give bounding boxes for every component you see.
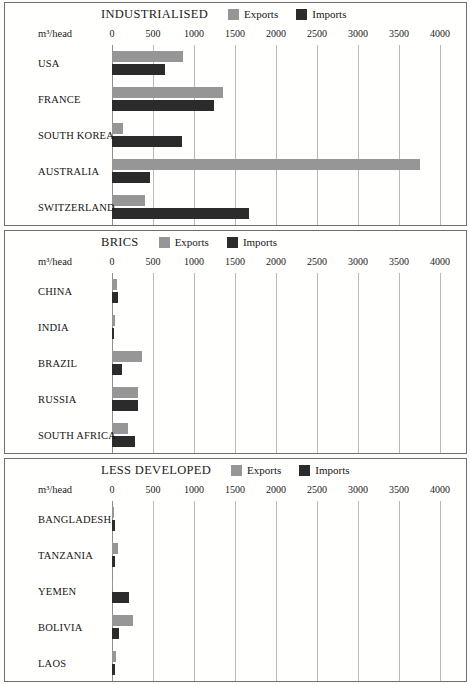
legend-swatch-exports-icon	[231, 465, 242, 476]
bar-exports	[112, 387, 138, 398]
category-label: FRANCE	[38, 94, 81, 105]
panel-title: BRICS	[101, 235, 139, 250]
axis-tick-label: 1500	[225, 256, 245, 267]
plot-area: USAFRANCESOUTH KOREAAUSTRALIASWITZERLAND	[5, 45, 466, 225]
bar-row: TANZANIA	[5, 537, 466, 573]
bar-row: USA	[5, 45, 466, 81]
axis-tick-label: 500	[146, 256, 161, 267]
axis-tick-label: 3500	[389, 28, 409, 39]
category-label: BRAZIL	[38, 358, 77, 369]
bar-imports	[112, 364, 122, 375]
bar-exports	[112, 507, 114, 518]
axis-tick-label: 0	[110, 256, 115, 267]
axis-tick-label: 3500	[389, 256, 409, 267]
category-label: LAOS	[38, 658, 66, 669]
category-label: AUSTRALIA	[38, 166, 99, 177]
axis-tick-label: 4000	[430, 256, 450, 267]
bar-imports	[112, 100, 214, 111]
panel-header: BRICSExportsImports	[5, 231, 466, 253]
x-axis: m³/head05001000150020002500300035004000	[5, 481, 466, 501]
bar-imports	[112, 172, 150, 183]
bar-imports	[112, 628, 119, 639]
category-label: SOUTH AFRICA	[38, 430, 116, 441]
axis-tick-label: 3500	[389, 484, 409, 495]
bar-imports	[112, 136, 182, 147]
bar-imports	[112, 208, 249, 219]
bar-row: CHINA	[5, 273, 466, 309]
bar-imports	[112, 592, 129, 603]
bar-row: RUSSIA	[5, 381, 466, 417]
bar-row: AUSTRALIA	[5, 153, 466, 189]
bar-row: SOUTH KOREA	[5, 117, 466, 153]
bar-row: SOUTH AFRICA	[5, 417, 466, 453]
axis-tick-label: 0	[110, 28, 115, 39]
bar-row: LAOS	[5, 645, 466, 681]
bar-exports	[112, 351, 142, 362]
legend-swatch-imports-icon	[227, 237, 238, 248]
category-label: CHINA	[38, 286, 72, 297]
bar-group	[5, 645, 466, 681]
legend-label-imports: Imports	[315, 464, 349, 476]
legend-label-imports: Imports	[312, 8, 346, 20]
bar-row: FRANCE	[5, 81, 466, 117]
legend-swatch-exports-icon	[228, 9, 239, 20]
category-label: INDIA	[38, 322, 69, 333]
legend-item-imports: Imports	[296, 8, 346, 20]
legend-item-exports: Exports	[228, 8, 278, 20]
axis-tick-label: 1000	[184, 256, 204, 267]
axis-unit-label: m³/head	[38, 28, 72, 39]
axis-tick-label: 3000	[348, 256, 368, 267]
legend-item-imports: Imports	[299, 464, 349, 476]
legend-swatch-imports-icon	[296, 9, 307, 20]
bar-row: BANGLADESH	[5, 501, 466, 537]
bar-imports	[112, 664, 115, 675]
axis-unit-label: m³/head	[38, 256, 72, 267]
axis-tick-label: 1000	[184, 28, 204, 39]
category-label: TANZANIA	[38, 550, 93, 561]
chart-legend: ExportsImports	[159, 236, 277, 248]
axis-tick-label: 0	[110, 484, 115, 495]
axis-tick-label: 1500	[225, 28, 245, 39]
category-label: SOUTH KOREA	[38, 130, 114, 141]
bar-exports	[112, 87, 223, 98]
chart-legend: ExportsImports	[231, 464, 349, 476]
bar-exports	[112, 195, 145, 206]
bar-imports	[112, 556, 115, 567]
bar-imports	[112, 400, 138, 411]
legend-label-exports: Exports	[244, 8, 278, 20]
bar-exports	[112, 543, 118, 554]
axis-tick-label: 2500	[307, 256, 327, 267]
legend-swatch-exports-icon	[159, 237, 170, 248]
plot-area: CHINAINDIABRAZILRUSSIASOUTH AFRICA	[5, 273, 466, 453]
panel-title: LESS DEVELOPED	[101, 463, 211, 478]
category-label: USA	[38, 58, 60, 69]
axis-unit-label: m³/head	[38, 484, 72, 495]
bar-imports	[112, 520, 115, 531]
chart-panel: BRICSExportsImportsm³/head05001000150020…	[4, 230, 467, 454]
x-axis: m³/head05001000150020002500300035004000	[5, 253, 466, 273]
bar-exports	[112, 579, 113, 590]
bar-group	[5, 309, 466, 345]
bar-row: BRAZIL	[5, 345, 466, 381]
axis-tick-label: 3000	[348, 484, 368, 495]
bar-group	[5, 273, 466, 309]
axis-tick-label: 500	[146, 28, 161, 39]
bar-row: SWITZERLAND	[5, 189, 466, 225]
axis-tick-label: 2500	[307, 28, 327, 39]
bar-rows: CHINAINDIABRAZILRUSSIASOUTH AFRICA	[5, 273, 466, 453]
category-label: SWITZERLAND	[38, 202, 115, 213]
axis-tick-label: 2000	[266, 28, 286, 39]
panel-header: LESS DEVELOPEDExportsImports	[5, 459, 466, 481]
bar-imports	[112, 292, 118, 303]
category-label: RUSSIA	[38, 394, 77, 405]
axis-tick-label: 500	[146, 484, 161, 495]
axis-tick-label: 1000	[184, 484, 204, 495]
legend-label-exports: Exports	[175, 236, 209, 248]
bar-exports	[112, 51, 183, 62]
bar-exports	[112, 279, 117, 290]
category-label: YEMEN	[38, 586, 76, 597]
axis-tick-label: 2000	[266, 484, 286, 495]
bar-row: INDIA	[5, 309, 466, 345]
plot-area: BANGLADESHTANZANIAYEMENBOLIVIALAOS	[5, 501, 466, 681]
bar-exports	[112, 615, 133, 626]
